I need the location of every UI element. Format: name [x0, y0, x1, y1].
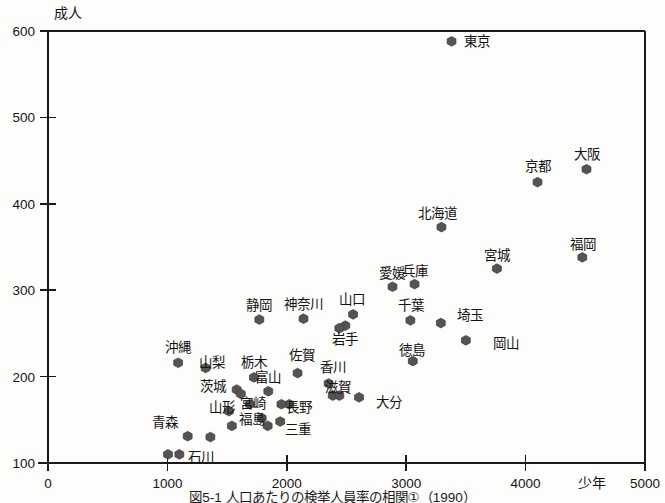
data-point-marker: [355, 392, 364, 402]
data-point-marker: [183, 431, 192, 441]
data-point-label: 富山: [255, 369, 281, 385]
data-point-label: 兵庫: [402, 264, 428, 279]
data-point-marker: [227, 421, 236, 431]
point-labels-group: 東京大阪京都北海道福岡宮城兵庫愛媛山口静岡神奈川千葉埼玉岩手岡山徳島沖縄山梨栃木…: [152, 34, 601, 465]
scatter-plot-canvas: 100200300400500600010002000300040005000 …: [0, 0, 665, 503]
data-point-label: 香川: [320, 360, 346, 375]
data-point-label: 長野: [286, 400, 313, 415]
data-point-label: 山形: [209, 400, 236, 415]
y-tick-label: 300: [12, 283, 35, 298]
data-point-label: 静岡: [246, 298, 272, 313]
axis-titles-group: 成人少年: [54, 5, 606, 491]
data-point-marker: [388, 282, 397, 292]
figure-caption: 図5-1 人口あたりの検挙人員率の相関①（1990）: [0, 488, 665, 503]
data-point-label: 京都: [525, 159, 551, 174]
data-point-marker: [299, 314, 308, 324]
data-point-label: 神奈川: [284, 297, 323, 312]
data-point-label: 徳島: [399, 343, 425, 358]
data-point-marker: [349, 310, 358, 320]
data-point-marker: [436, 318, 445, 328]
tick-labels-group: 100200300400500600010002000300040005000: [12, 24, 660, 491]
data-point-label: 三重: [285, 422, 311, 437]
data-point-label: 茨城: [200, 379, 227, 394]
data-point-label: 大阪: [574, 147, 601, 162]
data-point-label: 埼玉: [457, 308, 483, 323]
data-point-marker: [277, 399, 286, 409]
tick-marks-group: [40, 31, 645, 471]
data-point-marker: [461, 335, 470, 345]
data-point-marker: [406, 316, 415, 326]
chart-figure: 100200300400500600010002000300040005000 …: [0, 0, 665, 503]
data-point-marker: [264, 386, 273, 396]
data-point-marker: [533, 177, 542, 187]
data-point-marker: [493, 264, 502, 274]
data-point-label: 栃木: [241, 355, 268, 370]
data-point-label: 愛媛: [379, 266, 406, 281]
data-point-label: 宮城: [484, 248, 511, 263]
data-point-label: 岩手: [332, 332, 358, 347]
data-point-label: 北海道: [418, 206, 457, 221]
data-point-marker: [437, 222, 446, 232]
data-point-marker: [410, 279, 419, 289]
data-point-label: 石川: [188, 450, 214, 465]
data-point-marker: [164, 450, 173, 460]
data-point-label: 大分: [376, 395, 402, 410]
data-point-label: 佐賀: [289, 348, 315, 363]
data-point-label: 東京: [464, 34, 490, 49]
data-point-marker: [293, 368, 302, 378]
data-point-marker: [255, 315, 264, 325]
y-tick-label: 400: [12, 197, 35, 212]
data-point-marker: [578, 253, 587, 263]
y-tick-label: 600: [12, 24, 35, 39]
y-tick-label: 500: [12, 110, 35, 125]
data-point-marker: [276, 417, 285, 427]
data-point-label: 山口: [339, 292, 365, 307]
y-tick-label: 100: [12, 456, 35, 471]
y-tick-label: 200: [12, 370, 35, 385]
y-axis-title: 成人: [54, 5, 82, 21]
data-point-label: 福岡: [570, 237, 596, 252]
data-point-marker: [582, 164, 591, 174]
data-point-label: 福島: [239, 412, 265, 427]
data-point-label: 山梨: [199, 355, 226, 370]
data-point-marker: [206, 432, 215, 442]
data-point-label: 青森: [152, 415, 179, 430]
data-point-label: 千葉: [398, 298, 425, 313]
data-point-label: 宮崎: [240, 396, 266, 411]
data-point-label: 岡山: [493, 336, 519, 351]
data-point-marker: [447, 37, 456, 47]
data-point-label: 滋賀: [325, 380, 351, 395]
data-point-marker: [174, 358, 183, 368]
data-point-label: 沖縄: [165, 340, 192, 355]
data-point-marker: [175, 450, 184, 460]
